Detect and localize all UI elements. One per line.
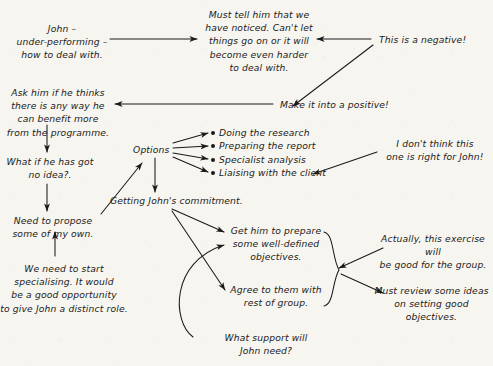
connector-support-to-prepare	[179, 245, 224, 337]
node-must-tell: Must tell him that we have noticed. Can'…	[198, 8, 320, 74]
bullet-dot-icon	[211, 131, 215, 135]
node-must-review: Must review some ideas on setting good o…	[370, 284, 493, 324]
node-dont-think-right: I don't think this one is right for John…	[377, 137, 493, 163]
connector-commitment-to-agree	[172, 211, 225, 290]
node-getting-commitment: Getting John's commitment.	[110, 194, 250, 207]
bullet-dot-icon	[211, 158, 215, 162]
list-item: Preparing the report	[211, 139, 326, 152]
bullet-dot-icon	[211, 144, 215, 148]
node-what-support: What support will John need?	[218, 331, 314, 357]
node-options: Options	[133, 143, 181, 156]
list-item: Specialist analysis	[211, 153, 326, 166]
node-we-need-specialising: We need to start specialising. It would …	[0, 262, 128, 315]
connector-commitment-to-prepare	[172, 209, 224, 232]
bullet-dot-icon	[211, 171, 215, 175]
node-actually-exercise: Actually, this exercise will be good for…	[373, 232, 493, 272]
connector-options-to-opt1	[173, 133, 208, 143]
node-john-problem: John – under-performing – how to deal wi…	[14, 22, 110, 62]
list-item-label: Liaising with the client	[219, 166, 326, 179]
list-item: Liaising with the client	[211, 166, 326, 179]
node-agree-with-group: Agree to them with rest of group.	[228, 283, 324, 309]
connector-options-to-opt4	[173, 157, 208, 172]
list-item: Doing the research	[211, 126, 326, 139]
list-item-label: Specialist analysis	[219, 153, 306, 166]
node-this-is-negative: This is a negative!	[379, 33, 491, 46]
objectives-group-brace	[324, 232, 339, 306]
node-make-positive: Make it into a positive!	[280, 98, 404, 111]
mind-map-canvas: John – under-performing – how to deal wi…	[0, 0, 493, 366]
node-ask-him: Ask him if he thinks there is any way he…	[0, 86, 116, 139]
node-get-him-prepare: Get him to prepare some well-defined obj…	[228, 224, 324, 264]
list-item-label: Preparing the report	[219, 139, 316, 152]
list-item-label: Doing the research	[219, 126, 310, 139]
node-need-to-propose: Need to propose some of my own.	[6, 214, 100, 240]
node-what-if-no-idea: What if he has got no idea?.	[2, 155, 98, 181]
options-bullet-list: Doing the research Preparing the report …	[211, 126, 326, 180]
